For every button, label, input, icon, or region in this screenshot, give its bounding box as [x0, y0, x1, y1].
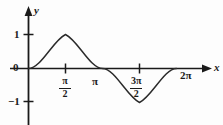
x-axis-label: x	[214, 62, 220, 73]
x-tick-label-two-pi: 2π	[180, 70, 192, 81]
x-tick-label-three-half-pi: 3π 2	[130, 76, 142, 99]
three-half-pi-denominator: 2	[133, 89, 140, 100]
x-axis-arrowhead	[202, 65, 212, 73]
y-axis-arrowhead	[25, 6, 33, 16]
plot-canvas	[0, 0, 223, 125]
y-axis-label: y	[34, 5, 39, 16]
three-half-pi-numerator: 3π	[130, 76, 142, 87]
half-pi-numerator: π	[61, 76, 68, 87]
y-axis	[25, 6, 33, 125]
half-pi-denominator: 2	[62, 89, 69, 100]
x-tick-label-pi: π	[92, 76, 98, 87]
y-tick-label-neg-one: −1	[8, 96, 20, 107]
x-tick-label-half-pi: π 2	[59, 76, 71, 99]
y-tick-label-one: 1	[14, 29, 20, 40]
sine-graph-figure: y x 1 0 −1 π 2 π 3π 2 2π	[0, 0, 223, 125]
y-tick-label-zero: 0	[13, 62, 19, 73]
